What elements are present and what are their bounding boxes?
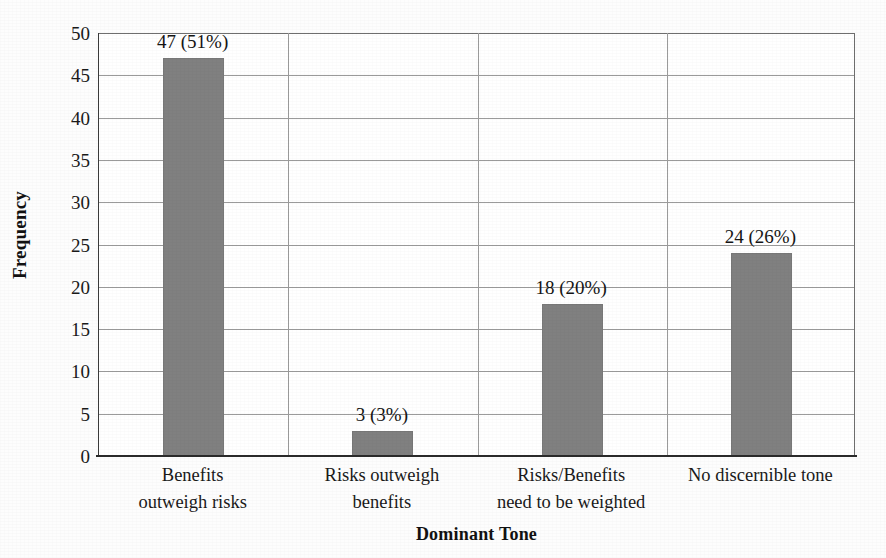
y-tick-label: 5 [81,404,91,423]
bar [163,58,224,456]
y-axis-tick-labels: 50454035302520151050 [44,33,90,456]
y-tick-label: 10 [71,362,90,381]
category-separator [667,33,668,456]
bar-value-label: 18 (20%) [536,278,607,297]
y-tick-label: 15 [71,320,90,339]
category-label-line: outweigh risks [138,489,246,516]
x-axis-line [96,455,857,457]
x-axis-title: Dominant Tone [98,524,855,545]
bar [352,431,413,456]
y-tick-label: 30 [71,193,90,212]
bar-value-label: 3 (3%) [356,405,408,424]
bar-value-label: 47 (51%) [157,32,228,51]
category-label-line: Benefits [162,465,224,485]
y-tick-label: 25 [71,235,90,254]
category-label-line: need to be weighted [497,489,645,516]
category-label-line: benefits [325,489,440,516]
y-axis-title: Frequency [0,0,40,470]
category-label: No discernible tone [688,462,833,489]
category-label-line: Risks outweigh [325,465,440,485]
y-tick-label: 35 [71,150,90,169]
y-axis-title-text: Frequency [9,191,31,279]
category-label: Benefitsoutweigh risks [138,462,246,516]
category-label: Risks outweighbenefits [325,462,440,516]
y-tick-label: 40 [71,108,90,127]
x-axis-category-labels: Benefitsoutweigh risksRisks outweighbene… [98,462,855,524]
bar-value-label: 24 (26%) [725,227,796,246]
y-tick-label: 45 [71,66,90,85]
category-label-line: Risks/Benefits [517,465,625,485]
category-separator [288,33,289,456]
category-label-line: No discernible tone [688,465,833,485]
y-tick-label: 20 [71,277,90,296]
bar-chart: Frequency 50454035302520151050 47 (51%)3… [0,0,886,558]
y-tick-label: 0 [81,447,91,466]
y-tick-label: 50 [71,24,90,43]
category-separator [478,33,479,456]
category-label: Risks/Benefitsneed to be weighted [497,462,645,516]
bar [542,304,603,456]
bar [731,253,792,456]
